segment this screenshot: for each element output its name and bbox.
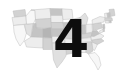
- state-kansas: [52, 29, 65, 37]
- state-idaho: [26, 10, 36, 24]
- state-iowa: [63, 22, 75, 29]
- state-north-dakota: [50, 9, 63, 16]
- state-missouri: [64, 29, 76, 40]
- state-ohio: [86, 24, 93, 34]
- state-florida: [89, 53, 102, 71]
- state-michigan: [80, 13, 88, 26]
- state-vermont: [105, 13, 108, 18]
- state-new-york: [92, 17, 105, 25]
- state-minnesota: [62, 9, 73, 20]
- state-new-hampshire: [107, 13, 110, 18]
- state-south-dakota: [51, 16, 63, 23]
- us-map-graphic: [0, 0, 127, 81]
- state-rhode-island: [109, 21, 111, 23]
- state-massachusetts: [105, 18, 113, 21]
- state-texas: [52, 43, 67, 68]
- state-california: [14, 25, 27, 47]
- state-oklahoma: [52, 37, 65, 44]
- state-wyoming: [36, 19, 52, 29]
- state-connecticut: [105, 21, 109, 23]
- state-arizona: [25, 37, 44, 48]
- state-maryland: [100, 29, 103, 33]
- state-new-mexico: [43, 38, 53, 50]
- map-thumbnail: 4: [0, 0, 127, 81]
- state-new-jersey: [103, 24, 105, 29]
- state-indiana: [82, 25, 86, 35]
- state-shapes: [12, 9, 115, 71]
- us-map-svg: [0, 0, 127, 81]
- state-louisiana: [66, 46, 77, 55]
- state-nebraska: [51, 23, 64, 30]
- state-oregon: [12, 16, 27, 26]
- state-georgia: [86, 42, 93, 54]
- state-arkansas: [65, 39, 75, 47]
- state-colorado: [43, 28, 52, 39]
- state-alabama: [80, 43, 86, 53]
